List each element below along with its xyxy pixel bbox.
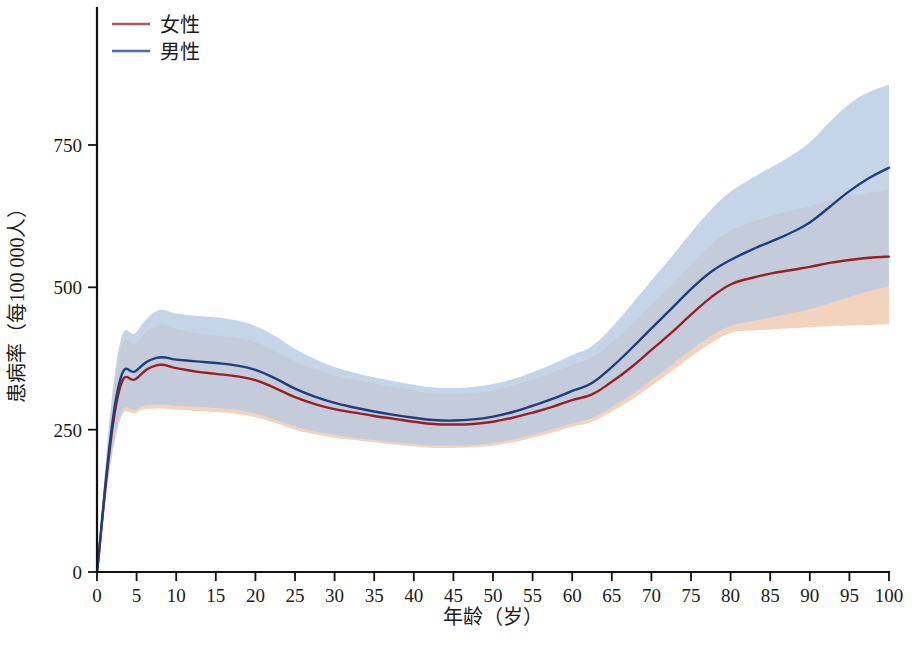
x-tick-label: 45	[444, 585, 463, 606]
x-tick-label: 15	[206, 585, 225, 606]
x-tick-label: 80	[721, 585, 740, 606]
y-tick-label: 750	[54, 135, 83, 156]
x-tick-label: 95	[840, 585, 859, 606]
x-tick-label: 90	[800, 585, 819, 606]
x-axis-title: 年龄（岁）	[443, 606, 543, 628]
y-tick-label: 250	[54, 420, 83, 441]
prevalence-by-age-chart: 0250500750 05101520253035404550556065707…	[0, 0, 915, 652]
x-tick-label: 85	[761, 585, 780, 606]
x-tick-label: 55	[523, 585, 542, 606]
x-tick-label: 40	[404, 585, 423, 606]
y-tick-label: 500	[54, 277, 83, 298]
x-tick-label: 60	[563, 585, 582, 606]
legend-label-female: 女性	[160, 14, 200, 36]
y-axis-title: 患病率（每100 000人）	[6, 198, 28, 403]
x-tick-label: 30	[325, 585, 344, 606]
chart-container: 0250500750 05101520253035404550556065707…	[0, 0, 915, 652]
x-tick-label: 25	[286, 585, 305, 606]
legend: 女性男性	[112, 14, 200, 63]
y-tick-label: 0	[73, 562, 83, 583]
x-tick-label: 100	[875, 585, 904, 606]
x-tick-label: 75	[682, 585, 701, 606]
x-tick-label: 0	[92, 585, 102, 606]
x-tick-label: 65	[602, 585, 621, 606]
confidence-bands	[97, 85, 889, 572]
x-tick-label: 10	[167, 585, 186, 606]
y-axis-ticks: 0250500750	[54, 135, 98, 583]
legend-label-male: 男性	[160, 41, 200, 63]
x-tick-label: 35	[365, 585, 384, 606]
x-tick-label: 20	[246, 585, 265, 606]
x-tick-label: 50	[484, 585, 503, 606]
x-axis-ticks: 0510152025303540455055606570758085909510…	[92, 572, 903, 606]
x-tick-label: 5	[132, 585, 142, 606]
x-tick-label: 70	[642, 585, 661, 606]
